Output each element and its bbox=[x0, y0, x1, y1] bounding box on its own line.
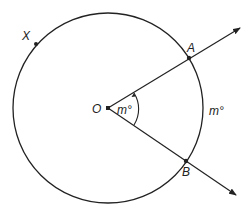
label-x: X bbox=[21, 29, 31, 43]
angle-label: m° bbox=[117, 103, 132, 117]
ray-ob bbox=[108, 108, 236, 195]
center-point-o bbox=[106, 106, 110, 110]
point-b bbox=[184, 159, 188, 163]
arc-label: m° bbox=[209, 104, 224, 118]
circle-diagram: O A B X m° m° bbox=[0, 0, 250, 215]
label-a: A bbox=[186, 41, 195, 55]
label-b: B bbox=[182, 165, 190, 179]
point-x bbox=[34, 42, 38, 46]
angle-arc bbox=[134, 93, 139, 125]
label-o: O bbox=[92, 102, 101, 116]
point-a bbox=[187, 56, 191, 60]
